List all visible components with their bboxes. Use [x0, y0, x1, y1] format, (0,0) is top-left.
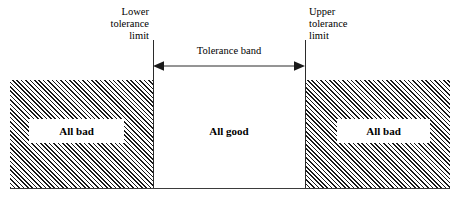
tolerance-band-diagram: Lower tolerance limit Upper tolerance li… [0, 0, 457, 200]
upper-limit-label-line2: tolerance [309, 18, 389, 30]
upper-tolerance-limit-label: Upper tolerance limit [309, 6, 389, 42]
zone-caption-good: All good [177, 119, 281, 143]
lower-limit-label-line2: tolerance [78, 18, 149, 30]
tolerance-band-arrow [153, 59, 305, 73]
upper-limit-label-line1: Upper [309, 6, 389, 18]
lower-limit-label-line1: Lower [78, 6, 149, 18]
zone-caption-bad-left: All bad [29, 119, 124, 143]
upper-tolerance-limit-line [305, 40, 306, 188]
upper-limit-label-line3: limit [309, 30, 389, 42]
lower-limit-label-line3: limit [78, 30, 149, 42]
zone-caption-bad-right: All bad [337, 119, 430, 143]
tolerance-band-label: Tolerance band [153, 45, 305, 56]
baseline-rule [10, 188, 450, 189]
lower-tolerance-limit-label: Lower tolerance limit [78, 6, 149, 42]
